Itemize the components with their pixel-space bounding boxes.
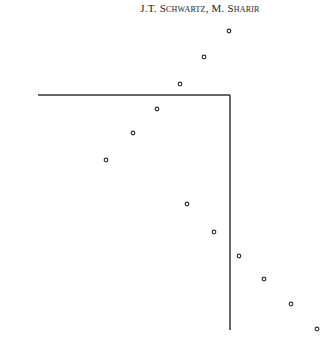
point: [289, 302, 293, 306]
point: [104, 158, 108, 162]
point: [315, 327, 319, 331]
point: [202, 55, 206, 59]
point: [212, 230, 216, 234]
point: [262, 277, 266, 281]
points-group: [104, 29, 319, 331]
point: [227, 29, 231, 33]
point: [185, 202, 189, 206]
point: [131, 131, 135, 135]
point: [155, 107, 159, 111]
corner-boundary: [38, 95, 230, 330]
point: [237, 254, 241, 258]
point: [178, 82, 182, 86]
figure: [0, 0, 320, 341]
